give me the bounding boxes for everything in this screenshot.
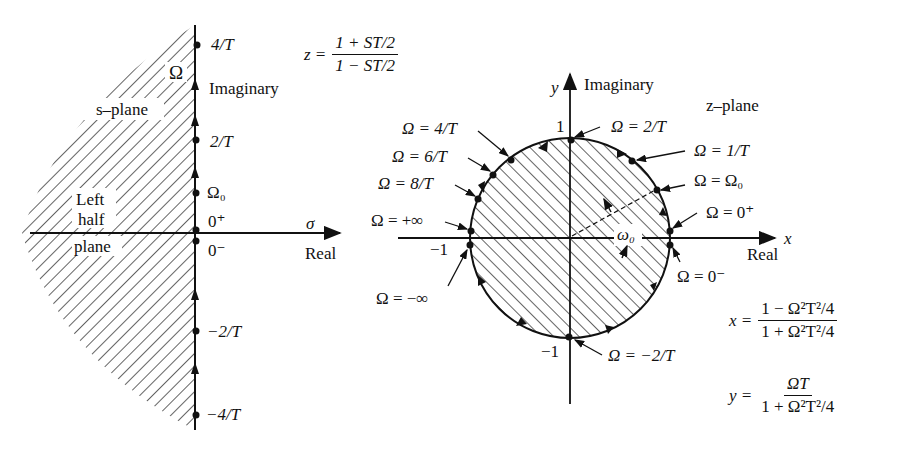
s-point-4-over-T: 4/T	[211, 36, 234, 53]
z-point-4-over-T: Ω = 4/T	[402, 120, 457, 137]
z-point-1-over-T: Ω = 1/T	[694, 142, 749, 159]
omega0-angle-label: ω₀	[617, 226, 635, 243]
z-y-axis-symbol: y	[551, 79, 559, 96]
z-point-0-minus: Ω = 0⁻	[677, 268, 725, 285]
y-equation-numerator: ΩT	[784, 375, 812, 396]
mapping-equation-numerator: 1 + ST/2	[332, 34, 398, 55]
z-point-minus-2-over-T: Ω = −2/T	[608, 347, 674, 364]
z-plane-name: z–plane	[706, 97, 759, 114]
z-point-0-plus: Ω = 0⁺	[706, 204, 754, 221]
s-imag-symbol: Ω	[169, 63, 183, 82]
s-point-0-minus: 0⁻	[208, 242, 225, 259]
mapping-equation: z = 1 + ST/2 1 − ST/2	[304, 34, 398, 75]
y-equation: y = ΩT 1 + Ω²T²/4	[729, 375, 837, 416]
z-point-minus-infinity: Ω = −∞	[376, 290, 428, 307]
s-point-2-over-T: 2/T	[210, 133, 233, 150]
s-real-axis-label: Real	[305, 245, 336, 262]
z-real-axis-label: Real	[747, 246, 778, 263]
s-point-0-plus: 0⁺	[208, 213, 225, 230]
s-point-minus-2-over-T: −2/T	[207, 323, 241, 340]
s-real-symbol: σ	[306, 215, 314, 232]
z-point-2-over-T: Ω = 2/T	[611, 118, 666, 135]
z-point-omega0: Ω = Ω₀	[694, 172, 743, 189]
s-plane	[22, 25, 340, 430]
z-tick-left: −1	[430, 241, 448, 258]
z-point-6-over-T: Ω = 6/T	[392, 148, 447, 165]
s-imag-axis-label: Imaginary	[209, 80, 279, 97]
x-equation-lhs: x =	[729, 311, 752, 331]
z-point-plus-infinity: Ω = +∞	[371, 212, 423, 229]
z-imag-axis-label: Imaginary	[584, 76, 654, 93]
y-equation-lhs: y =	[729, 386, 752, 406]
x-equation-denominator: 1 + Ω²T²/4	[758, 321, 837, 342]
mapping-equation-lhs: z =	[304, 45, 326, 65]
left-half-plane-label-line2: half	[78, 211, 104, 228]
x-equation-numerator: 1 − Ω²T²/4	[758, 300, 837, 321]
z-point-8-over-T: Ω = 8/T	[378, 175, 433, 192]
s-point-omega0: Ω₀	[207, 184, 226, 201]
x-equation: x = 1 − Ω²T²/4 1 + Ω²T²/4	[729, 300, 837, 341]
z-tick-top: 1	[556, 118, 565, 135]
mapping-equation-denominator: 1 − ST/2	[332, 55, 398, 76]
s-point-minus-4-over-T: −4/T	[206, 406, 240, 423]
left-half-plane-label-line1: Left	[76, 191, 104, 208]
y-equation-denominator: 1 + Ω²T²/4	[758, 396, 837, 417]
s-plane-name: s–plane	[96, 101, 148, 118]
z-x-axis-symbol: x	[784, 230, 792, 247]
z-tick-bottom: −1	[541, 343, 559, 360]
left-half-plane-label-line3: plane	[74, 238, 111, 255]
